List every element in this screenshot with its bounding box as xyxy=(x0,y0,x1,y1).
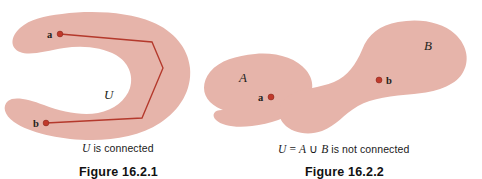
right-caption-a: A xyxy=(299,143,306,155)
set-u-label: U xyxy=(104,87,115,102)
right-caption-equals: = xyxy=(286,143,299,155)
set-a-point-dot xyxy=(268,94,274,100)
right-caption-text: is not connected xyxy=(328,143,409,155)
point-b-dot xyxy=(43,120,49,126)
right-caption-union: ∪ xyxy=(306,143,321,155)
point-b-label: b xyxy=(33,118,39,129)
set-b-point-label: b xyxy=(386,75,392,86)
figure-graphics: a b U a A b B xyxy=(0,0,482,179)
point-a-dot xyxy=(57,31,63,37)
point-a-label: a xyxy=(47,29,53,40)
set-b-point-dot xyxy=(376,77,382,83)
left-panel-group: a b U xyxy=(5,12,191,140)
left-caption: U is connected xyxy=(82,142,154,154)
left-figure-number: Figure 16.2.1 xyxy=(79,165,158,179)
set-a-label: A xyxy=(238,70,247,85)
right-caption: U = A ∪ B is not connected xyxy=(278,142,409,156)
right-panel-group: a A b B xyxy=(204,21,467,134)
set-b-label: B xyxy=(424,38,432,53)
figure-container: a b U a A b B U is connected Figure 16.2… xyxy=(0,0,482,179)
set-a-point-label: a xyxy=(258,92,264,103)
right-figure-number: Figure 16.2.2 xyxy=(305,165,384,179)
left-caption-text: is connected xyxy=(90,142,153,154)
